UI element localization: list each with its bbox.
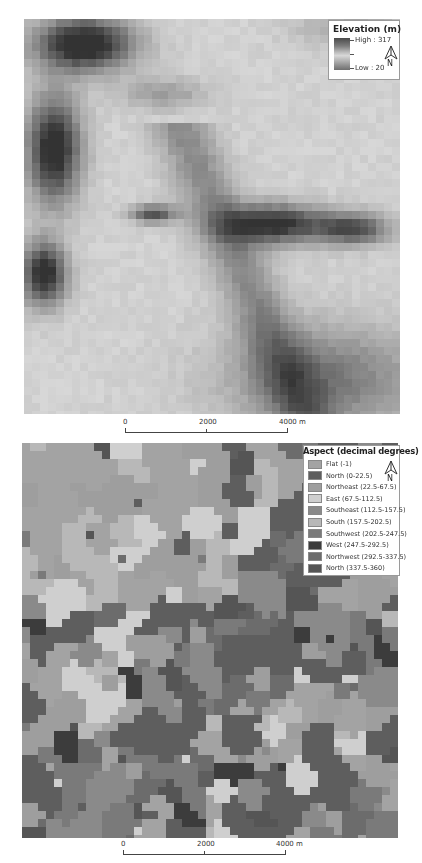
scale-tick — [123, 850, 124, 854]
elevation-low-label: Low : 20 — [355, 64, 385, 72]
legend-swatch — [308, 460, 322, 469]
aspect-legend-item: East (67.5-112.5) — [308, 494, 383, 504]
legend-label: Flat (-1) — [326, 460, 352, 468]
legend-label: East (67.5-112.5) — [326, 495, 383, 503]
legend-label: Northeast (22.5-67.5) — [326, 483, 397, 491]
north-arrow: N — [384, 45, 398, 69]
legend-label: Southeast (112.5-157.5) — [326, 506, 406, 514]
scale-label-2000: 2000 — [199, 418, 217, 426]
aspect-legend-item: South (157.5-202.5) — [308, 517, 392, 527]
legend-swatch — [308, 471, 322, 480]
aspect-legend: Aspect (decimal degrees) N Flat (-1)Nort… — [303, 445, 400, 576]
legend-label: North (337.5-360) — [326, 564, 385, 572]
legend-label: North (0-22.5) — [326, 472, 372, 480]
scale-label-4000: 4000 m — [276, 840, 303, 848]
north-label: N — [387, 59, 393, 68]
aspect-legend-item: Flat (-1) — [308, 459, 352, 469]
scale-line — [125, 432, 288, 433]
aspect-legend-item: West (247.5-292.5) — [308, 540, 389, 550]
legend-swatch — [308, 564, 322, 573]
legend-label: South (157.5-202.5) — [326, 518, 392, 526]
legend-label: Northwest (292.5-337.5) — [326, 553, 406, 561]
scale-label-0: 0 — [121, 840, 125, 848]
legend-label: West (247.5-292.5) — [326, 541, 389, 549]
legend-label: Southwest (202.5-247.5) — [326, 530, 407, 538]
scale-line — [123, 854, 286, 855]
scale-tick — [206, 429, 207, 432]
ramp-tick-mid — [350, 54, 354, 55]
scale-tick — [285, 850, 286, 854]
scale-tick — [287, 428, 288, 432]
elevation-legend-title: Elevation (m) — [333, 24, 401, 34]
scale-tick — [204, 851, 205, 854]
legend-swatch — [308, 529, 322, 538]
aspect-map-panel: Aspect (decimal degrees) N Flat (-1)Nort… — [0, 440, 422, 863]
aspect-legend-item: Southeast (112.5-157.5) — [308, 505, 406, 515]
aspect-legend-item: North (337.5-360) — [308, 563, 385, 573]
elevation-scale-bar: 0 2000 4000 m — [120, 418, 320, 438]
elevation-legend: Elevation (m) High : 317 Low : 20 N — [328, 20, 400, 80]
north-arrow: N — [384, 460, 398, 484]
elevation-high-label: High : 317 — [355, 36, 391, 44]
aspect-scale-bar: 0 2000 4000 m — [118, 840, 318, 860]
legend-swatch — [308, 541, 322, 550]
elevation-color-ramp — [334, 38, 350, 70]
scale-tick — [125, 428, 126, 432]
legend-swatch — [308, 518, 322, 527]
legend-swatch — [308, 506, 322, 515]
scale-label-0: 0 — [123, 418, 127, 426]
aspect-legend-title: Aspect (decimal degrees) — [303, 446, 419, 456]
legend-swatch — [308, 483, 322, 492]
ramp-tick-low — [350, 68, 354, 69]
legend-swatch — [308, 552, 322, 561]
scale-label-4000: 4000 m — [279, 418, 306, 426]
scale-label-2000: 2000 — [197, 840, 215, 848]
elevation-map-panel: Elevation (m) High : 317 Low : 20 N 0 20… — [0, 0, 422, 440]
aspect-legend-item: Northeast (22.5-67.5) — [308, 482, 397, 492]
aspect-legend-item: North (0-22.5) — [308, 471, 372, 481]
aspect-legend-item: Southwest (202.5-247.5) — [308, 529, 407, 539]
aspect-legend-item: Northwest (292.5-337.5) — [308, 552, 406, 562]
ramp-tick-high — [350, 40, 354, 41]
legend-swatch — [308, 494, 322, 503]
